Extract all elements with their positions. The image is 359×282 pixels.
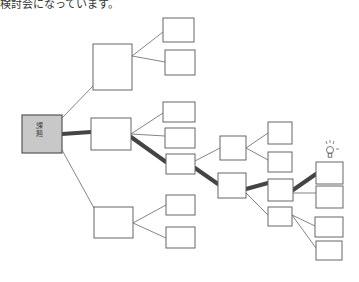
emphasized-connector [246, 183, 268, 189]
lightbulb-icon [326, 140, 339, 157]
node-box-b2 [165, 128, 195, 148]
connector [246, 133, 268, 148]
bulb-ray [333, 141, 334, 144]
connector [133, 205, 166, 223]
connector [292, 215, 315, 226]
node-box-a [93, 44, 132, 90]
emphasized-connector [131, 137, 166, 162]
node-box-b1 [163, 102, 195, 122]
connector [62, 150, 94, 208]
connector [246, 148, 268, 160]
node-box-b [91, 118, 131, 150]
connector [195, 148, 220, 161]
node-box-e [218, 173, 246, 198]
connector [132, 56, 165, 62]
emphasized-connector [293, 174, 316, 190]
connector [131, 113, 163, 134]
node-box-c2 [166, 227, 195, 248]
connector [62, 86, 93, 118]
bulb-ray [326, 141, 327, 144]
node-box-d [220, 136, 246, 160]
node-box-d2 [268, 152, 292, 172]
emphasized-connector [62, 132, 91, 134]
connector [292, 215, 316, 248]
node-box-e1 [268, 179, 293, 201]
node-box-b3 [166, 154, 195, 174]
connector [131, 134, 165, 136]
emphasized-connector [195, 168, 218, 184]
node-box-a1 [163, 18, 194, 42]
root-issue-label: 課題 [34, 122, 44, 138]
tree-diagram [0, 0, 359, 282]
node-box-c [94, 207, 133, 238]
connector [133, 223, 166, 238]
bulb-glass [327, 147, 334, 154]
node-box-g2 [316, 241, 342, 260]
node-box-f1 [316, 162, 343, 184]
node-box-g1 [315, 217, 343, 237]
node-box-d1 [268, 122, 292, 144]
node-box-c1 [166, 195, 195, 215]
connector [246, 193, 268, 215]
connector [132, 32, 163, 56]
node-box-a2 [165, 50, 195, 75]
node-box-f2 [316, 186, 343, 208]
node-box-e2 [268, 207, 292, 226]
